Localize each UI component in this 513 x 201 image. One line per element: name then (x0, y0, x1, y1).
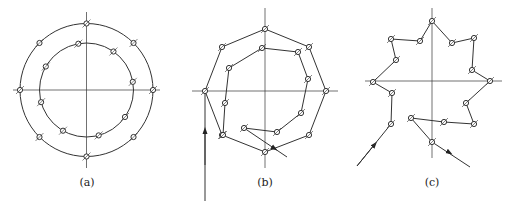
entry-line (357, 124, 391, 166)
figure-a (13, 12, 160, 168)
figure-c (357, 8, 502, 167)
figure-b (192, 8, 338, 201)
caption-a: (a) (67, 176, 107, 189)
path-points (357, 17, 494, 166)
path-points (201, 25, 330, 156)
caption-b: (b) (245, 176, 285, 189)
inner-polyline-path (223, 48, 308, 135)
diagram-canvas (0, 0, 513, 201)
caption-c: (c) (412, 176, 452, 189)
